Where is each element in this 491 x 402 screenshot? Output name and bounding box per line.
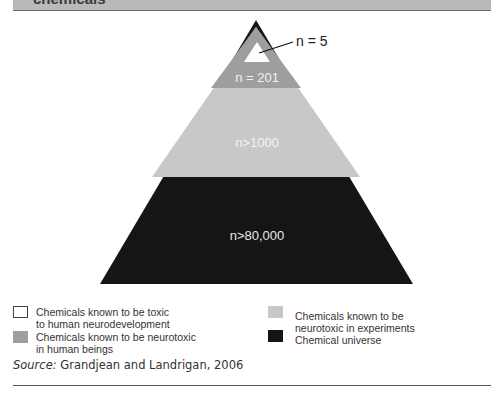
legend-swatch-black bbox=[268, 330, 283, 342]
legend-text-line1: Chemicals known to be neurotoxic bbox=[36, 331, 196, 343]
legend: Chemicals known to be toxic to human neu… bbox=[0, 0, 491, 402]
source-prefix: Source: bbox=[13, 358, 57, 372]
source-text: Grandjean and Landrigan, 2006 bbox=[57, 358, 244, 372]
legend-text-line1: Chemicals known to be toxic bbox=[36, 306, 170, 318]
legend-swatch-mid-gray bbox=[13, 331, 28, 343]
legend-text-line2: to human neurodevelopment bbox=[36, 318, 170, 330]
legend-text-line1: Chemicals known to be bbox=[295, 310, 415, 322]
legend-text-line2: in human beings bbox=[36, 343, 196, 355]
legend-text-line2: neurotoxic in experiments bbox=[295, 322, 415, 334]
bottom-rule bbox=[13, 385, 491, 386]
legend-text-line1: Chemical universe bbox=[295, 334, 381, 346]
legend-swatch-light-gray bbox=[268, 306, 283, 318]
source-citation: Source: Grandjean and Landrigan, 2006 bbox=[13, 358, 243, 372]
legend-swatch-white bbox=[13, 306, 28, 318]
